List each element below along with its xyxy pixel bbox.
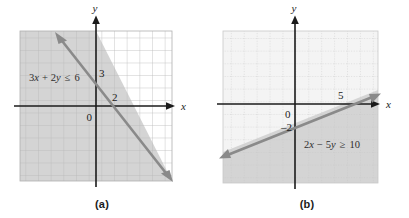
ineq-var-x: x [33, 72, 39, 83]
panel-a-caption: (a) [0, 198, 204, 210]
y-axis-label: y [92, 2, 98, 14]
inequality-figure: x y 3 2 0 3x+2y≤6 (a) [0, 0, 409, 218]
x-intercept-label: 5 [338, 89, 344, 101]
panel-a-graph: x y 3 2 0 3x+2y≤6 [0, 0, 204, 218]
y-axis-label: y [291, 2, 297, 14]
ineq-operator: + [42, 72, 48, 83]
ineq-var-x: x [308, 139, 314, 150]
ineq-relation: ≥ [340, 139, 346, 150]
y-axis-arrow-icon [92, 16, 100, 25]
grid-lines [223, 31, 378, 183]
origin-label: 0 [285, 108, 291, 120]
x-intercept-label: 2 [112, 91, 118, 103]
ineq-rhs: 10 [350, 139, 361, 150]
panel-a: x y 3 2 0 3x+2y≤6 (a) [0, 0, 204, 218]
panel-b-caption: (b) [205, 198, 409, 210]
ineq-relation: ≤ [65, 72, 71, 83]
ineq-rhs: 6 [75, 72, 80, 83]
ineq-var-y: y [330, 139, 336, 150]
panel-b: x y 0 –2 5 2x−5y≥10 (b) [205, 0, 409, 218]
ineq-operator: − [317, 139, 323, 150]
y-axis-arrow-icon [291, 16, 299, 25]
y-intercept-label: –2 [280, 121, 292, 133]
x-axis-label: x [180, 100, 186, 112]
panel-b-graph: x y 0 –2 5 2x−5y≥10 [205, 0, 409, 218]
x-axis-label: x [385, 98, 391, 110]
y-intercept-label: 3 [99, 67, 105, 79]
ineq-var-y: y [55, 72, 61, 83]
inequality-label: 2x−5y≥10 [304, 139, 360, 150]
origin-label: 0 [87, 111, 93, 123]
